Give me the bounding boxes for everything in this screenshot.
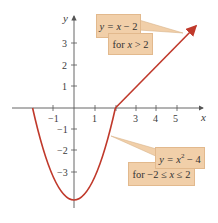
y-tick-label: −1 [57, 124, 68, 135]
y-tick-label: −3 [57, 167, 68, 178]
y-tick-label: 3 [62, 38, 67, 49]
y-tick-label: 1 [62, 81, 67, 92]
annotation-parabola-formula: y = x2 − 4 [155, 147, 205, 169]
x-tick-label: 3 [133, 113, 138, 124]
x-tick-label: −1 [48, 113, 59, 124]
x-tick-label: 4 [153, 113, 158, 124]
x-tick-label: 5 [173, 113, 178, 124]
y-axis-label: y [62, 12, 68, 24]
x-axis-label: x [200, 111, 206, 123]
y-tick-label: 2 [62, 60, 67, 71]
x-tick-label: 1 [92, 113, 97, 124]
y-tick-label: −2 [57, 145, 68, 156]
annotation-linear-domain: for x > 2 [108, 33, 153, 55]
callout-pointer [139, 20, 183, 33]
callout-pointer [111, 136, 160, 158]
